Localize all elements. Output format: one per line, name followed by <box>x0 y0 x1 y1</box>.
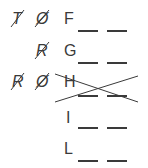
answer-blank[interactable] <box>78 95 98 97</box>
answer-blank[interactable] <box>107 62 127 64</box>
crossed-letter: Ø <box>36 11 48 27</box>
row-letter: L <box>64 141 73 157</box>
answer-blank[interactable] <box>107 160 127 162</box>
row-letter: G <box>64 43 76 59</box>
crossed-letter: T <box>12 11 22 27</box>
crossed-letter: R <box>12 74 24 90</box>
row-letter: H <box>64 74 76 90</box>
crossed-letter: R <box>36 43 48 59</box>
answer-blank[interactable] <box>107 30 127 32</box>
row-letter: I <box>66 110 70 126</box>
answer-blank[interactable] <box>107 95 127 97</box>
crossed-letter: Ø <box>36 74 48 90</box>
answer-blank[interactable] <box>78 62 98 64</box>
answer-blank[interactable] <box>78 160 98 162</box>
answer-blank[interactable] <box>107 127 127 129</box>
answer-blank[interactable] <box>78 127 98 129</box>
answer-blank[interactable] <box>78 30 98 32</box>
row-letter: F <box>64 11 74 27</box>
